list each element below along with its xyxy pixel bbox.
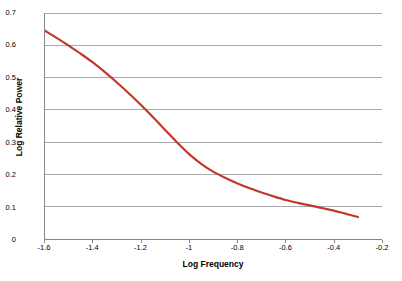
x-tick-mark xyxy=(334,240,335,243)
x-tick-mark xyxy=(44,240,45,243)
x-tick-label: -0.2 xyxy=(362,243,402,252)
x-tick-mark xyxy=(141,240,142,243)
y-tick-label: 0.7 xyxy=(0,9,16,17)
x-tick-label: -1.2 xyxy=(121,243,161,252)
y-tick-label: 0.6 xyxy=(0,41,16,49)
x-tick-label: -0.8 xyxy=(217,243,257,252)
chart-container: 00.10.20.30.40.50.60.7 -1.6-1.4-1.2-1-0.… xyxy=(0,0,402,281)
x-tick-mark xyxy=(92,240,93,243)
y-tick-label: 0 xyxy=(0,236,16,244)
y-axis-title: Log Relative Power xyxy=(14,52,24,182)
x-tick-label: -1.4 xyxy=(72,243,112,252)
x-tick-label: -0.6 xyxy=(265,243,305,252)
x-tick-label: -0.4 xyxy=(314,243,354,252)
plot-area xyxy=(44,13,382,240)
x-tick-label: -1 xyxy=(169,243,209,252)
x-tick-mark xyxy=(285,240,286,243)
x-tick-mark xyxy=(237,240,238,243)
x-tick-label: -1.6 xyxy=(24,243,64,252)
y-tick-label: 0.1 xyxy=(0,204,16,212)
line-series-log-relative-power xyxy=(45,13,382,239)
x-tick-mark xyxy=(382,240,383,243)
x-axis-title: Log Frequency xyxy=(44,259,382,269)
x-tick-mark xyxy=(189,240,190,243)
